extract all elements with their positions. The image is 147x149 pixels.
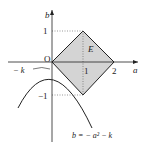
b-axis-arrow (50, 10, 54, 15)
neg-k-pointer (33, 68, 50, 70)
tick-a-2: 2 (112, 66, 117, 76)
b-axis-label: b (45, 10, 50, 20)
origin-label: O (44, 54, 51, 64)
tick-a-1: 1 (84, 66, 89, 76)
tick-b-neg1: −1 (38, 91, 48, 101)
neg-k-label: − k (13, 65, 25, 75)
region-e (52, 31, 114, 95)
a-axis-label: a (133, 65, 138, 75)
tick-b-1: 1 (43, 26, 48, 36)
diagram: b a O E 1 2 1 −1 − k b = − a² − k (0, 0, 147, 149)
a-axis-arrow (133, 60, 138, 64)
curve-label: b = − a² − k (72, 131, 113, 140)
region-label: E (87, 44, 94, 54)
coordinate-plot: b a O E 1 2 1 −1 − k b = − a² − k (0, 0, 147, 149)
